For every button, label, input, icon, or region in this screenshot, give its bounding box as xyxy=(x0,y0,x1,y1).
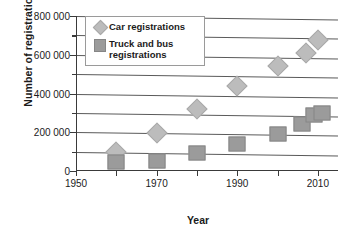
y-tick xyxy=(72,74,77,75)
data-point-square xyxy=(188,145,205,160)
x-tick xyxy=(116,171,117,176)
x-axis-line xyxy=(76,170,338,171)
data-point-diamond xyxy=(186,98,207,119)
y-tick xyxy=(72,113,77,114)
gridline xyxy=(76,132,338,136)
diamond-marker-icon xyxy=(91,21,109,33)
y-tick-label: 600 000 xyxy=(34,49,70,60)
chart-container: Number of registrations 0200 000400 0006… xyxy=(0,0,356,228)
gridline xyxy=(76,94,338,98)
gridline xyxy=(76,74,338,78)
data-point-square xyxy=(269,126,286,141)
legend-item-truck: Truck and bus registrations xyxy=(91,38,199,60)
data-point-square xyxy=(148,153,165,168)
x-axis-title: Year xyxy=(0,214,356,226)
y-axis-title: Number of registrations xyxy=(22,0,34,126)
x-tick xyxy=(197,171,198,176)
y-tick-label: 800 000 xyxy=(34,11,70,22)
x-tick xyxy=(278,171,279,176)
legend-item-car: Car registrations xyxy=(91,21,199,33)
legend-label-car: Car registrations xyxy=(109,21,185,32)
legend-label-truck: Truck and bus registrations xyxy=(109,38,199,60)
x-tick xyxy=(157,171,158,176)
y-tick xyxy=(70,16,77,17)
legend: Car registrations Truck and bus registra… xyxy=(85,16,205,66)
data-point-diamond xyxy=(227,75,248,96)
x-tick xyxy=(237,171,238,176)
x-tick-label: 1950 xyxy=(65,178,87,189)
data-point-square xyxy=(313,106,330,121)
data-point-diamond xyxy=(146,122,167,143)
y-tick xyxy=(70,132,77,133)
y-tick-label: 400 000 xyxy=(34,88,70,99)
y-tick xyxy=(70,55,77,56)
x-tick xyxy=(318,171,319,176)
data-point-square xyxy=(108,154,125,169)
x-tick-label: 1970 xyxy=(145,178,167,189)
data-point-diamond xyxy=(267,56,288,77)
y-tick xyxy=(72,152,77,153)
square-marker-icon xyxy=(91,38,109,52)
x-tick-label: 1990 xyxy=(226,178,248,189)
y-tick xyxy=(72,35,77,36)
y-tick-label: 0 xyxy=(64,166,70,177)
x-tick xyxy=(76,171,77,176)
y-tick xyxy=(70,94,77,95)
x-tick-label: 2010 xyxy=(307,178,329,189)
data-point-square xyxy=(229,136,246,151)
y-tick-label: 200 000 xyxy=(34,127,70,138)
